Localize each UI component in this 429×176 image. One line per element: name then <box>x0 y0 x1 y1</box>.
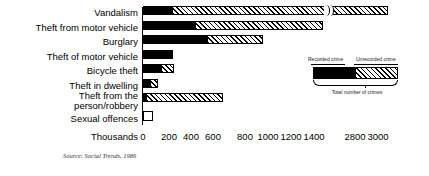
legend-brace <box>313 80 398 86</box>
bar-segment-recorded-theft-of-motor-vehicle <box>143 50 173 59</box>
x-tick-0: 0 <box>140 131 145 143</box>
bar-segment-unrecorded-theft-from-motor-vehicle <box>195 21 323 30</box>
category-label-theft-in-dwelling: Theft in dwelling <box>69 81 138 91</box>
crime-statistics-bar-chart: Vandalism Theft from motor vehicle Burgl… <box>0 0 429 176</box>
bar-segment-unrecorded-theft-from-the-person-robbery <box>146 93 223 102</box>
x-tick-1400: 1400 <box>303 131 324 143</box>
legend-label-total-number-of-crimes: Total number of crimes <box>305 89 409 95</box>
x-tick-800: 800 <box>237 131 253 143</box>
category-label-theft-from-the-person-robbery: Theft from the person/robbery <box>18 91 138 111</box>
category-label-sexual-offences: Sexual offences <box>71 114 138 124</box>
legend-swatch-unrecorded <box>356 68 398 78</box>
chart-legend: Recorded crime Unrecorded crime Total nu… <box>305 56 425 106</box>
bar-segment-recorded-burglary <box>143 35 208 44</box>
category-label-vandalism: Vandalism <box>94 8 138 18</box>
category-label-burglary: Burglary <box>103 37 138 47</box>
category-label-theft-from-motor-vehicle: Theft from motor vehicle <box>36 23 138 33</box>
category-label-bicycle-theft: Bicycle theft <box>87 66 138 76</box>
bar-segment-unrecorded-bicycle-theft <box>161 64 174 73</box>
x-axis-ticks: 0 200 400 600 800 1000 1200 1400 2800 30… <box>0 131 429 147</box>
x-tick-3000: 3000 <box>367 131 388 143</box>
legend-label-unrecorded-crime: Unrecorded crime <box>356 56 396 62</box>
legend-underline-unrecorded <box>354 64 398 65</box>
bar-segment-unrecorded-vandalism <box>172 6 388 15</box>
legend-swatch <box>313 67 398 79</box>
x-tick-2800: 2800 <box>344 131 365 143</box>
x-tick-600: 600 <box>205 131 221 143</box>
bar-segment-recorded-vandalism <box>143 6 173 15</box>
x-tick-400: 400 <box>183 131 199 143</box>
legend-label-recorded-crime: Recorded crime <box>308 56 343 62</box>
legend-underline-recorded <box>311 64 345 65</box>
category-label-theft-of-motor-vehicle: Theft of motor vehicle <box>47 52 138 62</box>
bar-segment-unrecorded-theft-in-dwelling <box>150 79 158 88</box>
bar-segment-unrecorded-burglary <box>207 35 263 44</box>
bar-segment-recorded-sexual-offences <box>143 111 153 121</box>
legend-swatch-recorded <box>314 68 356 78</box>
bar-segment-recorded-bicycle-theft <box>143 64 162 73</box>
legend-brace-tick <box>365 85 366 88</box>
x-tick-1000: 1000 <box>257 131 278 143</box>
axis-break-marker <box>324 5 333 16</box>
bar-segment-recorded-theft-from-motor-vehicle <box>143 21 196 30</box>
source-note: Source: Social Trends, 1986 <box>63 152 136 160</box>
x-tick-1200: 1200 <box>280 131 301 143</box>
x-tick-200: 200 <box>161 131 177 143</box>
